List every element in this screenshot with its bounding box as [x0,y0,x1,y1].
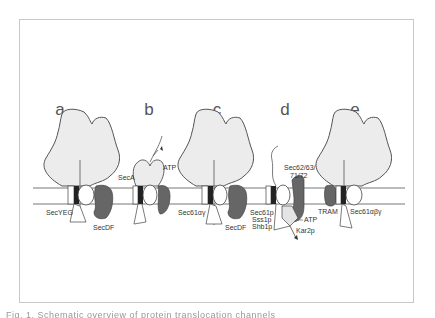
label-atp-d: ATP [304,216,317,223]
label-71-72: 71/72 [290,172,308,179]
secdf-c [228,185,247,219]
panel-d: Sec62/63/ 71/72 Sec61p Sss1p Shb1p ATP K… [250,146,317,240]
label-secdf-a: SecDF [93,224,114,231]
tram [325,185,337,206]
ribosome-a [44,109,120,186]
label-sec61abg: Sec61αβγ [350,208,382,216]
label-sec61ag: Sec61αγ [178,209,206,217]
label-tram: TRAM [318,208,338,215]
label-kar2p: Kar2p [296,227,315,235]
label-seca: SecA [118,174,135,181]
panel-e: TRAM Sec61αβγ [316,109,392,228]
ribosome-c [178,109,254,186]
translocation-diagram: SecYEG SecDF SecA ATP Sec61αγ SecDF [0,0,435,318]
ribosome-e [316,109,392,186]
label-secyeg: SecYEG [46,209,73,216]
seca [133,160,164,186]
secdf-a [94,185,113,219]
panel-c: Sec61αγ SecDF [178,109,254,231]
label-sec62: Sec62/63/ [284,164,316,171]
label-secdf-c: SecDF [225,224,246,231]
label-shb1p: Shb1p [252,223,272,231]
figure-caption-clipped: Fig. 1. Schematic overview of protein tr… [6,310,431,318]
label-atp-b: ATP [163,164,176,171]
panel-b: SecA ATP [118,136,176,224]
panel-a: SecYEG SecDF [44,109,120,231]
